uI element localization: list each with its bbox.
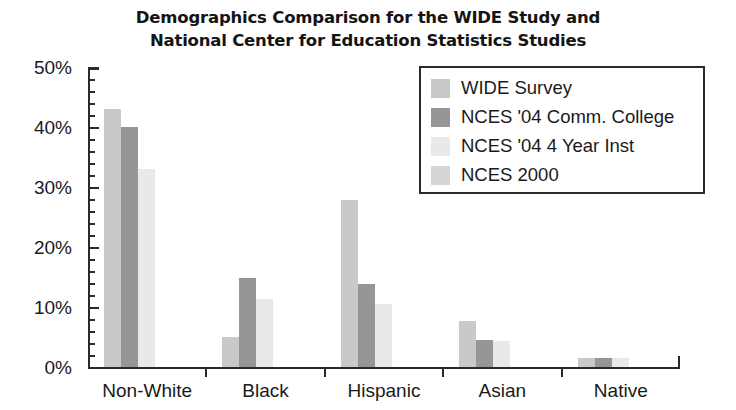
legend-item: WIDE Survey [431,74,572,102]
y-axis-line [88,68,90,369]
legend-label: NCES '04 Comm. College [461,106,674,128]
chart-title-line-2: National Center for Education Statistics… [0,29,736,52]
bar [341,200,358,367]
x-axis-right-cap [678,356,680,369]
x-axis-line [88,367,680,369]
y-tick-major [88,67,99,69]
x-axis-category-label: Black [206,380,324,402]
x-tick [561,367,563,377]
legend-swatch-icon [431,79,450,98]
legend-item: NCES 2000 [431,161,559,189]
chart-legend: WIDE SurveyNCES '04 Comm. CollegeNCES '0… [419,66,705,194]
y-tick-minor [88,355,95,357]
x-tick [205,367,207,377]
x-tick [442,367,444,377]
y-tick-minor [88,139,95,141]
y-tick-minor [88,79,95,81]
y-tick-minor [88,91,95,93]
y-tick-major [88,127,99,129]
y-tick-minor [88,115,95,117]
bar [578,358,595,367]
y-tick-minor [88,211,95,213]
y-tick-minor [88,271,95,273]
y-tick-minor [88,151,95,153]
bar-chart: Demographics Comparison for the WIDE Stu… [0,0,736,410]
x-axis-category-label: Asian [443,380,561,402]
legend-item: NCES '04 Comm. College [431,103,674,131]
y-tick-minor [88,235,95,237]
bar [375,304,392,367]
bar [104,109,121,367]
y-axis-tick-label: 20% [8,237,72,259]
y-axis-tick-label: 10% [8,297,72,319]
y-tick-minor [88,103,95,105]
y-axis-tick-label: 50% [8,57,72,79]
y-tick-minor [88,223,95,225]
legend-swatch-icon [431,166,450,185]
bar [358,284,375,367]
x-axis-category-label: Native [562,380,680,402]
y-tick-major [88,307,99,309]
y-tick-minor [88,283,95,285]
y-tick-minor [88,175,95,177]
bar [138,169,155,367]
y-tick-minor [88,259,95,261]
y-tick-minor [88,319,95,321]
x-tick [324,367,326,377]
y-tick-major [88,187,99,189]
bar [256,299,273,367]
legend-item: NCES '04 4 Year Inst [431,132,634,160]
chart-title-line-1: Demographics Comparison for the WIDE Stu… [0,6,736,29]
y-tick-minor [88,163,95,165]
y-axis-tick-label: 40% [8,117,72,139]
y-tick-minor [88,199,95,201]
legend-swatch-icon [431,108,450,127]
legend-label: NCES '04 4 Year Inst [461,135,634,157]
bar [222,337,239,367]
y-tick-minor [88,295,95,297]
bar [239,278,256,367]
y-tick-major [88,367,99,369]
legend-swatch-icon [431,137,450,156]
bar [493,341,510,367]
y-tick-minor [88,343,95,345]
chart-title: Demographics Comparison for the WIDE Stu… [0,6,736,52]
bar [612,358,629,367]
legend-label: WIDE Survey [461,77,572,99]
x-axis-category-label: Hispanic [325,380,443,402]
y-axis-tick-label: 30% [8,177,72,199]
x-axis-category-label: Non-White [88,380,206,402]
bar [595,358,612,367]
legend-label: NCES 2000 [461,164,559,186]
y-tick-minor [88,331,95,333]
y-tick-major [88,247,99,249]
bar [121,127,138,367]
y-axis-tick-label: 0% [8,357,72,379]
bar [459,321,476,367]
bar [476,340,493,367]
